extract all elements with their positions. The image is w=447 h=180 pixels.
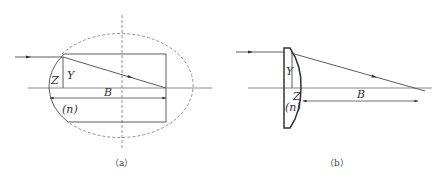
refracted-ray-b: [291, 53, 425, 91]
figure-b: Y Z (n) B （b）: [236, 48, 432, 168]
figure-a: Z Y B (n) （a）: [15, 15, 212, 168]
label-B-b: B: [356, 88, 365, 101]
label-Z: Z: [50, 74, 59, 87]
label-B: B: [103, 86, 112, 99]
label-n-b: (n): [285, 101, 301, 114]
label-n: (n): [62, 103, 78, 116]
caption-b: （b）: [325, 158, 349, 168]
label-Y: Y: [67, 69, 76, 82]
label-Y-b: Y: [286, 65, 295, 78]
optics-diagram: Z Y B (n) （a） Y Z (n) B （b）: [0, 0, 447, 180]
refracted-ray: [63, 57, 166, 88]
caption-a: （a）: [110, 158, 133, 168]
